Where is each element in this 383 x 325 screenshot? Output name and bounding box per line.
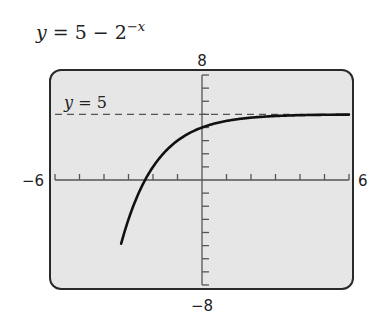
ymax-label: 8 xyxy=(197,52,207,70)
chart-title: y = 5 − 2−x xyxy=(35,19,146,43)
graph-figure: y = 5 − 2−x y = 5 8 −8 −6 6 xyxy=(0,0,383,325)
xmin-label: −6 xyxy=(22,172,44,190)
asymptote-label: y = 5 xyxy=(63,93,107,112)
ymin-label: −8 xyxy=(191,297,213,315)
xmax-label: 6 xyxy=(358,172,368,190)
